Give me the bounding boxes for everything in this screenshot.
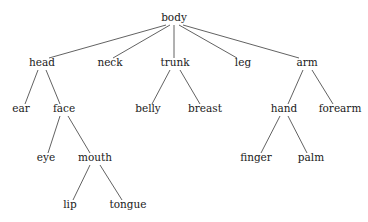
tree-node-finger: finger — [240, 151, 273, 163]
tree-node-neck: neck — [97, 56, 123, 68]
nodes-group: bodyheadnecktrunklegarmearfacebellybreas… — [12, 11, 361, 210]
tree-edge-body-neck — [113, 25, 170, 58]
tree-node-palm: palm — [298, 151, 324, 163]
tree-node-mouth: mouth — [78, 151, 112, 163]
tree-edge-trunk-belly — [152, 70, 170, 104]
tree-edge-mouth-tongue — [100, 165, 122, 200]
tree-node-body: body — [161, 11, 187, 23]
tree-edge-head-ear — [25, 70, 38, 104]
tree-edge-arm-hand — [288, 70, 303, 104]
tree-node-lip: lip — [63, 198, 77, 210]
tree-node-trunk: trunk — [160, 56, 190, 68]
tree-node-forearm: forearm — [319, 102, 362, 114]
tree-diagram-canvas: bodyheadnecktrunklegarmearfacebellybreas… — [0, 0, 368, 222]
tree-node-eye: eye — [37, 151, 55, 163]
tree-node-breast: breast — [188, 102, 223, 114]
tree-edge-hand-finger — [261, 116, 280, 153]
tree-edge-hand-palm — [288, 116, 307, 153]
tree-edge-arm-forearm — [312, 70, 333, 104]
tree-node-arm: arm — [296, 56, 317, 68]
tree-diagram: bodyheadnecktrunklegarmearfacebellybreas… — [0, 0, 368, 222]
tree-node-hand: hand — [271, 102, 298, 114]
tree-edge-trunk-breast — [180, 70, 200, 104]
tree-edge-head-face — [46, 70, 60, 104]
tree-edge-face-mouth — [68, 116, 90, 153]
tree-node-tongue: tongue — [109, 198, 146, 210]
tree-node-head: head — [29, 56, 55, 68]
tree-edge-face-eye — [48, 116, 60, 153]
tree-node-face: face — [53, 102, 75, 114]
tree-node-ear: ear — [12, 102, 30, 114]
tree-edge-body-arm — [183, 25, 299, 58]
tree-edge-body-head — [49, 25, 166, 58]
tree-node-belly: belly — [135, 102, 161, 114]
tree-node-leg: leg — [235, 56, 252, 68]
tree-edge-body-leg — [179, 25, 237, 58]
tree-edge-mouth-lip — [73, 165, 90, 200]
